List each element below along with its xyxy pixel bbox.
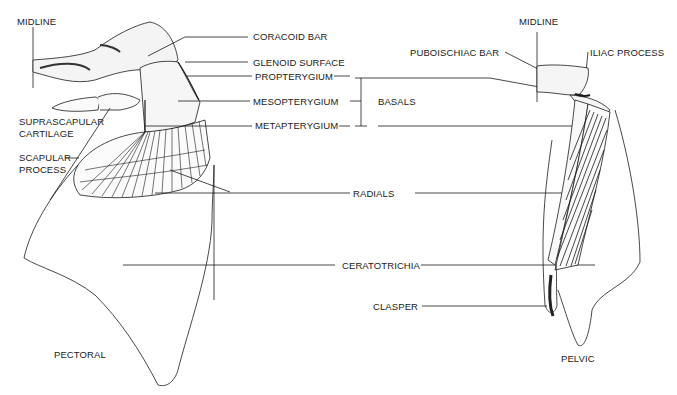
radials-label: RADIALS bbox=[352, 188, 395, 199]
metapterygium-label: METAPTERYGIUM bbox=[254, 120, 339, 131]
clasper-label: CLASPER bbox=[372, 301, 419, 312]
puboischiac-bar-label: PUBOISCHIAC BAR bbox=[409, 47, 500, 58]
pelvic-midline-label: MIDLINE bbox=[518, 16, 559, 27]
scapular-process-label-line1: SCAPULAR bbox=[18, 152, 72, 163]
scapular-process-label-line2: PROCESS bbox=[18, 164, 67, 175]
basals-label: BASALS bbox=[377, 96, 417, 107]
mesopterygium-label: MESOPTERYGIUM bbox=[252, 96, 340, 107]
iliac-process-label: ILIAC PROCESS bbox=[589, 47, 665, 58]
propterygium-label: PROPTERYGIUM bbox=[254, 71, 334, 82]
pelvic-title: PELVIC bbox=[560, 353, 596, 364]
pectoral-title: PECTORAL bbox=[53, 349, 107, 360]
glenoid-surface-label: GLENOID SURFACE bbox=[252, 57, 346, 68]
suprascapular-label-line1: SUPRASCAPULAR bbox=[18, 116, 105, 127]
ceratotrichia-label: CERATOTRICHIA bbox=[341, 260, 421, 271]
puboischiac-bar-shape bbox=[537, 65, 588, 95]
suprascapular-label-line2: CARTILAGE bbox=[18, 128, 75, 139]
pectoral-midline-label: MIDLINE bbox=[16, 16, 57, 27]
coracoid-bar-label: CORACOID BAR bbox=[252, 31, 329, 42]
